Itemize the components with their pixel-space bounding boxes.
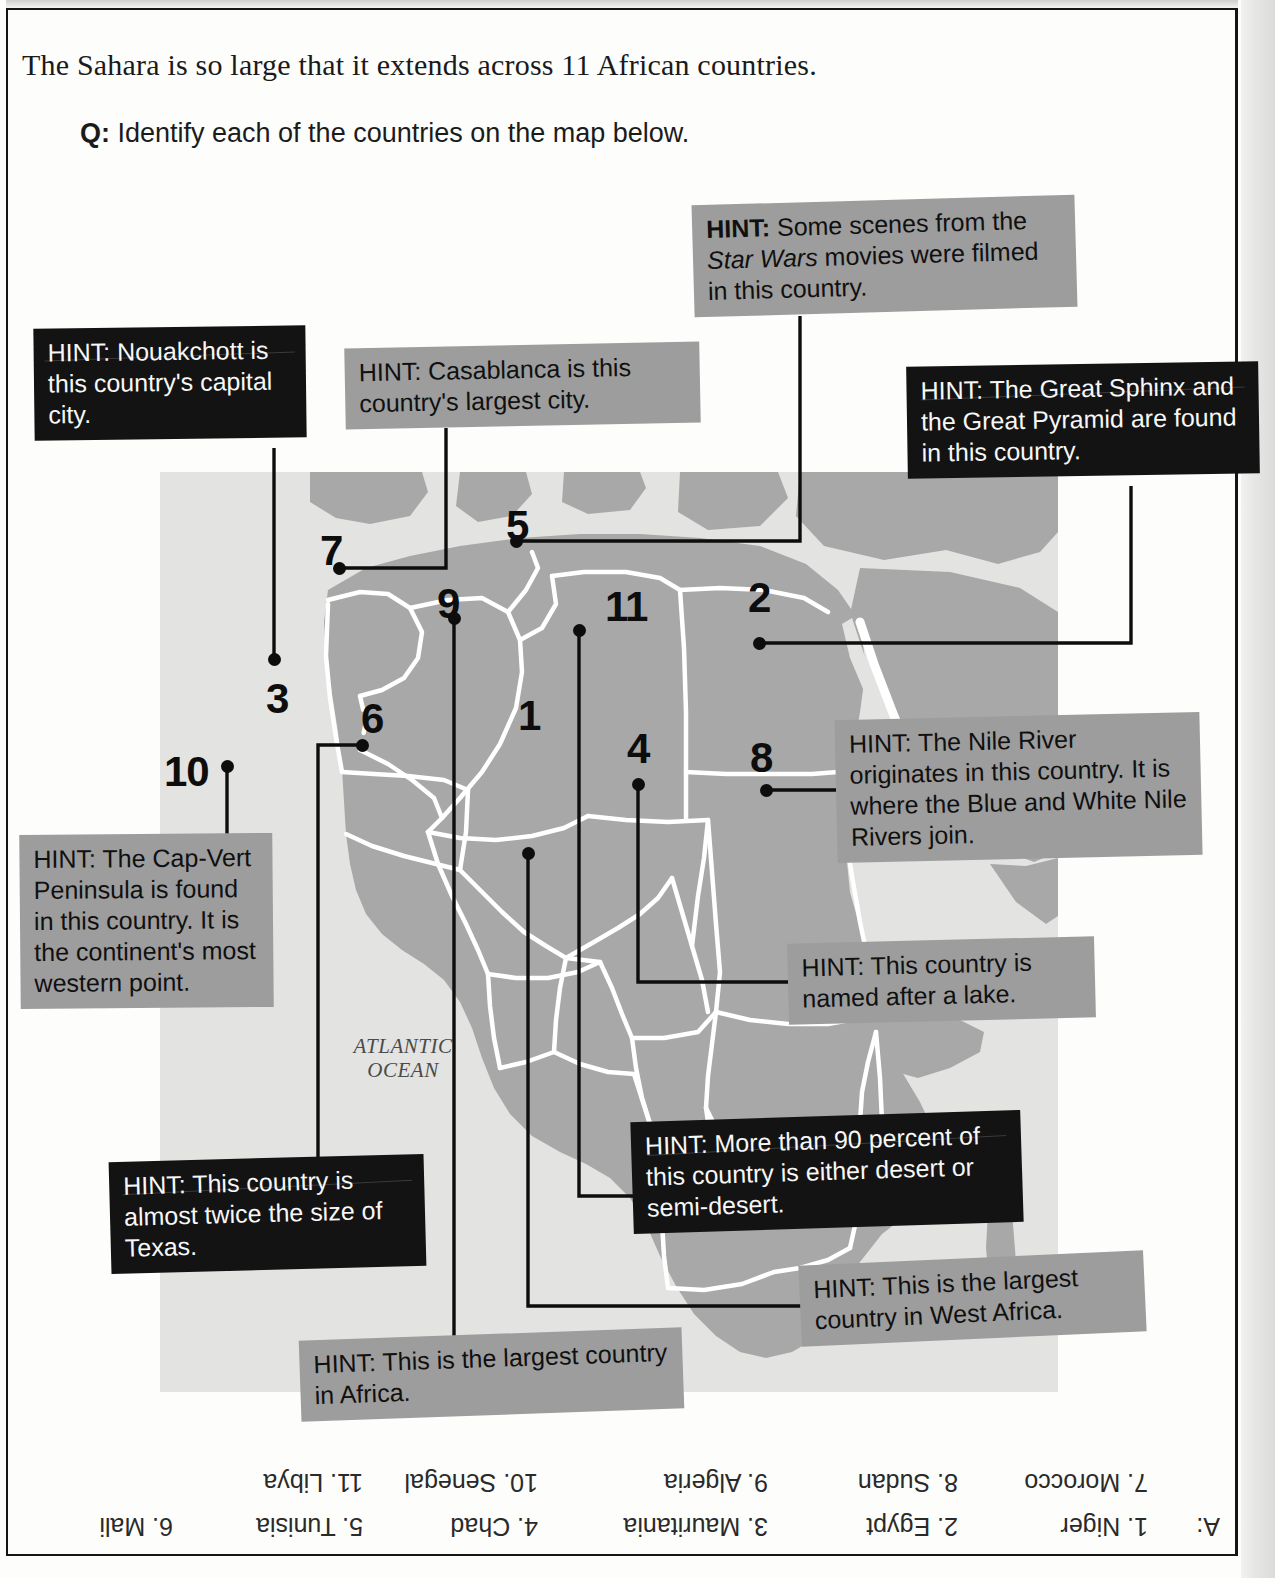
hint-box-cap-vert: HINT: The Cap-Vert Peninsula is found in…	[19, 833, 274, 1009]
ocean-label-line-2: OCEAN	[318, 1059, 488, 1083]
question-line: Q: Identify each of the countries on the…	[80, 118, 689, 149]
hint-box-twice-texas: HINT: This country is almost twice the s…	[109, 1154, 427, 1274]
hint-text-largest-africa: HINT: This is the largest country in Afr…	[313, 1338, 668, 1409]
hint-text-named-after-lake: HINT: This country is named after a lake…	[801, 948, 1032, 1013]
question-text: Identify each of the countries on the ma…	[110, 118, 689, 148]
map-dot-9	[448, 612, 461, 625]
worksheet-page: The Sahara is so large that it extends a…	[0, 0, 1275, 1578]
hint-box-great-sphinx: HINT: The Great Sphinx and the Great Pyr…	[906, 361, 1260, 479]
hint-text-twice-texas: HINT: This country is almost twice the s…	[123, 1166, 383, 1262]
hint-text-nile-river: HINT: The Nile River originates in this …	[849, 725, 1187, 851]
hint-box-nile-river: HINT: The Nile River originates in this …	[834, 712, 1202, 863]
map-number-4: 4	[627, 728, 649, 770]
answer-item-11: 11. Libya	[173, 1468, 363, 1497]
answer-item-9: 9. Algeria	[538, 1468, 768, 1497]
map-number-10: 10	[164, 751, 209, 793]
answer-item-4: 4. Chad	[363, 1512, 538, 1541]
answer-item-7: 7. Morocco	[958, 1468, 1148, 1497]
answer-item-8: 8. Sudan	[768, 1468, 958, 1497]
map-dot-2	[753, 637, 766, 650]
map-dot-11	[573, 624, 586, 637]
answer-key-row-bottom: 7. Morocco 8. Sudan 9. Algeria 10. Seneg…	[30, 1468, 1220, 1497]
hint-text-90-percent-desert: HINT: More than 90 percent of this count…	[645, 1121, 981, 1221]
answer-key-prefix: A:	[1148, 1512, 1220, 1541]
page-right-edge-shadow	[1241, 0, 1275, 1578]
hint-text-nouakchott: HINT: Nouakchott is this country's capit…	[47, 336, 272, 429]
hint-text-cap-vert: HINT: The Cap-Vert Peninsula is found in…	[33, 843, 256, 997]
answer-item-2: 2. Egypt	[768, 1512, 958, 1541]
page-top-edge	[6, 0, 1238, 8]
map-number-8: 8	[750, 737, 772, 779]
answer-item-5: 5. Tunisia	[173, 1512, 363, 1541]
answer-item-10: 10. Senegal	[363, 1468, 538, 1497]
ocean-label-line-1: ATLANTIC	[318, 1035, 488, 1059]
hint-box-named-after-lake: HINT: This country is named after a lake…	[787, 936, 1096, 1024]
map-dot-4	[632, 778, 645, 791]
map-dot-7	[333, 562, 346, 575]
answer-key-row-top: A: 1. Niger 2. Egypt 3. Mauritania 4. Ch…	[30, 1512, 1220, 1541]
answer-item-3: 3. Mauritania	[538, 1512, 768, 1541]
map-number-6: 6	[361, 698, 383, 740]
map-dot-1	[522, 847, 535, 860]
hint-box-90-percent-desert: HINT: More than 90 percent of this count…	[630, 1110, 1023, 1234]
page-headline: The Sahara is so large that it extends a…	[22, 48, 817, 82]
hint-box-nouakchott: HINT: Nouakchott is this country's capit…	[33, 325, 306, 440]
answer-item-1: 1. Niger	[958, 1512, 1148, 1541]
map-number-2: 2	[748, 577, 770, 619]
atlantic-ocean-label: ATLANTIC OCEAN	[318, 1035, 488, 1082]
map-number-3: 3	[266, 678, 288, 720]
answer-key: A: 1. Niger 2. Egypt 3. Mauritania 4. Ch…	[30, 1440, 1220, 1545]
hint-box-star-wars: HINT: Some scenes from the Star Wars mov…	[692, 195, 1078, 318]
map-number-11: 11	[605, 586, 647, 628]
hint-text-casablanca: HINT: Casablanca is this country's large…	[358, 353, 631, 417]
map-dot-10	[221, 760, 234, 773]
hint-box-largest-west-africa: HINT: This is the largest country in Wes…	[798, 1250, 1146, 1347]
map-dot-3	[268, 653, 281, 666]
hint-text-star-wars: HINT: Some scenes from the Star Wars mov…	[706, 206, 1039, 305]
hint-box-largest-africa: HINT: This is the largest country in Afr…	[299, 1327, 685, 1421]
hint-box-casablanca: HINT: Casablanca is this country's large…	[344, 342, 700, 430]
hint-text-largest-west-africa: HINT: This is the largest country in Wes…	[813, 1263, 1079, 1334]
map-dot-8	[760, 784, 773, 797]
map-dot-5	[510, 535, 523, 548]
map-number-1: 1	[518, 695, 540, 737]
answer-item-6: 6. Mali	[33, 1512, 173, 1541]
question-label: Q:	[80, 118, 110, 148]
map-dot-6	[356, 739, 369, 752]
hint-text-great-sphinx: HINT: The Great Sphinx and the Great Pyr…	[920, 372, 1236, 467]
